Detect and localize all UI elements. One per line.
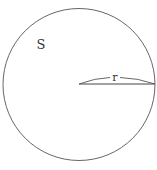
region-label: S — [37, 37, 46, 52]
radius-label: r — [112, 71, 118, 84]
circle-diagram: r S — [0, 0, 157, 170]
